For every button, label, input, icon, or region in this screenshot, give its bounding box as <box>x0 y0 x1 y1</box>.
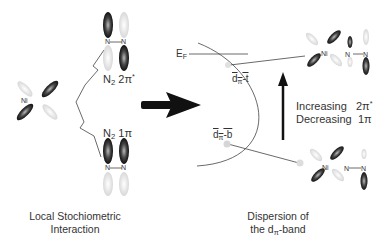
top-right-n-left: N <box>345 51 350 58</box>
trend-up-arrow-icon <box>278 72 288 140</box>
jagged-connector-top <box>76 50 104 102</box>
caption-band-dispersion: Dispersion of the dπ-band <box>228 210 328 237</box>
trend-decreasing-label: Decreasing <box>296 114 352 125</box>
bottom-right-ni-label: Ni <box>322 164 329 171</box>
bottom-right-n-right: N <box>361 165 366 172</box>
n2-top-atom-left: N <box>105 38 110 45</box>
orbital-interaction-diagram: Ni N N N2 2π* N2 1π N N EF dπ-t dπ-b Ni … <box>0 0 388 242</box>
trend-increasing-orbital: 2π* <box>356 101 373 112</box>
n2-top-atom-right: N <box>121 38 126 45</box>
jagged-connector-bottom <box>76 102 101 157</box>
bottom-state-connector <box>228 144 299 163</box>
process-arrow-icon <box>141 92 201 118</box>
trend-decreasing-orbital: 1π <box>358 114 372 125</box>
d-pi-bottom-label: dπ-b <box>213 130 232 141</box>
caption-local-interaction: Local Stochiometric Interaction <box>20 210 130 236</box>
top-state-connector <box>230 56 305 65</box>
trend-increasing-label: Increasing <box>296 101 347 112</box>
bottom-right-ni-n2-complex-icon <box>308 144 368 190</box>
left-ni-label: Ni <box>21 97 28 104</box>
n2-bonding-label: N2 1π <box>103 128 132 141</box>
top-right-n-right: N <box>363 51 368 58</box>
n2-bottom-atom-left: N <box>105 164 110 171</box>
bottom-right-n-left: N <box>344 165 349 172</box>
d-pi-top-label: dπ-t <box>232 74 249 85</box>
top-right-ni-label: Ni <box>321 50 328 57</box>
n2-bottom-atom-right: N <box>121 164 126 171</box>
band-dispersion-curve <box>197 43 259 166</box>
fermi-level-label: EF <box>176 49 187 60</box>
top-right-ni-n2-complex-icon <box>304 28 370 75</box>
n2-antibonding-label: N2 2π* <box>103 74 135 87</box>
